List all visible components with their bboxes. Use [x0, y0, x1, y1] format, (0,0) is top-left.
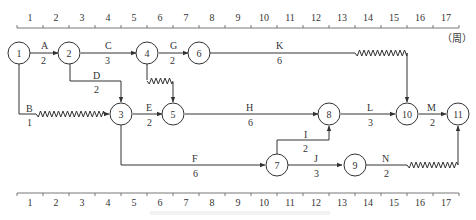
axis-tick-label: 16 — [415, 197, 425, 208]
axis-tick-label: 8 — [210, 197, 215, 208]
axis-tick-label: 3 — [80, 197, 85, 208]
axis-tick-label: 13 — [337, 12, 347, 23]
axis-tick-label: 10 — [259, 197, 269, 208]
axis-tick-label: 7 — [184, 12, 189, 23]
axis-tick-label: 3 — [80, 12, 85, 23]
caption-faded — [150, 211, 330, 215]
label-H: H — [246, 102, 253, 113]
node-label: 8 — [327, 109, 332, 120]
axis-tick-label: 12 — [311, 197, 321, 208]
duration-F: 6 — [193, 168, 198, 179]
activity-labels: A 2 C 3 G 2 K 6 D 2 B 1 E 2 H 6 L 3 M 2 … — [26, 40, 436, 179]
node-label: 3 — [119, 109, 124, 120]
duration-I: 2 — [303, 143, 308, 154]
axis-tick-label: 6 — [158, 197, 163, 208]
duration-C: 3 — [105, 55, 110, 66]
axis-tick-label: 8 — [210, 12, 215, 23]
node-label: 10 — [402, 109, 412, 120]
duration-N: 2 — [384, 168, 389, 179]
time-scaled-network-diagram: 1234567891011121314151617 （周） 1234567891… — [0, 0, 476, 220]
axis-tick-label: 2 — [54, 12, 59, 23]
axis-tick-label: 16 — [415, 12, 425, 23]
label-K: K — [276, 40, 284, 51]
axis-tick-label: 17 — [441, 197, 451, 208]
axis-tick-label: 5 — [132, 12, 137, 23]
duration-M: 2 — [430, 117, 435, 128]
node-label: 9 — [353, 160, 358, 171]
axis-tick-label: 13 — [337, 197, 347, 208]
label-G: G — [170, 40, 177, 51]
label-J: J — [314, 153, 318, 164]
duration-L: 3 — [368, 117, 373, 128]
label-A: A — [41, 40, 49, 51]
axis-tick-label: 4 — [106, 197, 111, 208]
axis-tick-label: 10 — [259, 12, 269, 23]
axis-tick-label: 1 — [28, 12, 33, 23]
axis-tick-label: 12 — [311, 12, 321, 23]
activity-N-float-wave — [407, 162, 458, 168]
label-L: L — [367, 102, 373, 113]
axis-tick-label: 11 — [285, 197, 295, 208]
axis-tick-label: 9 — [236, 197, 241, 208]
axis-tick-label: 6 — [158, 12, 163, 23]
label-B: B — [26, 103, 33, 114]
label-C: C — [105, 40, 112, 51]
label-M: M — [427, 102, 436, 113]
duration-B: 1 — [27, 117, 32, 128]
node-label: 4 — [145, 48, 150, 59]
duration-A: 2 — [41, 55, 46, 66]
axis-tick-label: 1 — [28, 197, 33, 208]
label-I: I — [304, 129, 307, 140]
label-N: N — [382, 153, 389, 164]
axis-tick-label: 17 — [441, 12, 451, 23]
node-label: 1 — [17, 48, 22, 59]
node-label: 7 — [275, 160, 280, 171]
axis-tick-label: 15 — [389, 197, 399, 208]
label-F: F — [192, 153, 198, 164]
axis-tick-label: 7 — [184, 197, 189, 208]
duration-G: 2 — [170, 55, 175, 66]
top-timeline-axis — [17, 25, 459, 28]
axis-tick-label: 11 — [285, 12, 295, 23]
label-D: D — [93, 70, 100, 81]
activity-K-float-wave — [355, 50, 407, 56]
node-label: 5 — [171, 109, 176, 120]
bottom-timeline-axis — [17, 193, 459, 196]
node-label: 2 — [67, 48, 72, 59]
duration-E: 2 — [147, 117, 152, 128]
duration-J: 3 — [314, 168, 319, 179]
axis-tick-label: 14 — [363, 197, 373, 208]
axis-tick-label: 5 — [132, 197, 137, 208]
duration-D: 2 — [94, 84, 99, 95]
time-unit-label: （周） — [442, 33, 472, 44]
axis-tick-label: 9 — [236, 12, 241, 23]
activity-B-float-wave — [36, 111, 104, 117]
axis-tick-label: 14 — [363, 12, 373, 23]
node-label: 6 — [197, 48, 202, 59]
duration-H: 6 — [248, 117, 253, 128]
virtual-float-wave — [147, 78, 173, 84]
node-label: 11 — [453, 109, 463, 120]
axis-tick-label: 15 — [389, 12, 399, 23]
label-E: E — [146, 102, 152, 113]
axis-tick-label: 4 — [106, 12, 111, 23]
axis-tick-label: 2 — [54, 197, 59, 208]
duration-K: 6 — [277, 55, 282, 66]
